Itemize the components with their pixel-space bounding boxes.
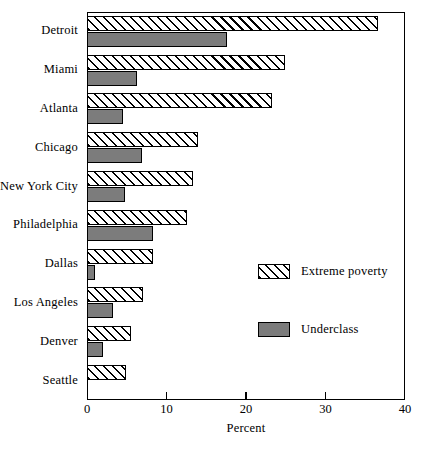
legend-label: Underclass: [301, 322, 359, 337]
y-axis-label: Denver: [40, 335, 78, 348]
bar-extreme-poverty: [87, 16, 378, 31]
y-axis-label: Chicago: [35, 141, 78, 154]
legend-swatch-hatch: [258, 264, 290, 279]
bar-group: [87, 284, 405, 323]
legend-label: Extreme poverty: [301, 264, 388, 279]
bar-group: [87, 128, 405, 167]
bar-underclass: [87, 32, 227, 47]
bar-group: [87, 51, 405, 90]
bar-underclass: [87, 148, 142, 163]
x-axis-title: Percent: [87, 421, 405, 436]
bar-extreme-poverty: [87, 249, 153, 264]
bar-underclass: [87, 226, 153, 241]
bar-extreme-poverty: [87, 287, 143, 302]
y-axis-label: Miami: [44, 63, 78, 76]
bar-extreme-poverty: [87, 132, 198, 147]
x-tick-mark: [166, 392, 168, 400]
x-tick-label: 10: [160, 402, 173, 416]
bars-layer: [87, 12, 405, 400]
bar-underclass: [87, 303, 113, 318]
x-tick-label: 20: [240, 402, 253, 416]
x-tick-mark: [325, 392, 327, 400]
bar-extreme-poverty: [87, 210, 187, 225]
legend-swatch-solid: [258, 322, 290, 337]
x-tick-label: 30: [319, 402, 332, 416]
bar-group: [87, 90, 405, 129]
bar-chart: DetroitMiamiAtlantaChicagoNew York CityP…: [0, 0, 427, 475]
x-tick-label: 0: [84, 402, 90, 416]
bar-extreme-poverty: [87, 171, 193, 186]
y-axis-label: Detroit: [41, 24, 78, 37]
bar-underclass: [87, 71, 137, 86]
bar-extreme-poverty: [87, 326, 131, 341]
x-tick-label: 40: [399, 402, 412, 416]
legend-item: Extreme poverty: [258, 264, 388, 279]
bar-extreme-poverty: [87, 55, 285, 70]
bar-underclass: [87, 342, 103, 357]
y-axis-category-labels: DetroitMiamiAtlantaChicagoNew York CityP…: [0, 12, 83, 400]
y-axis-label: Atlanta: [40, 102, 78, 115]
y-axis-label: Dallas: [45, 257, 78, 270]
bar-group: [87, 206, 405, 245]
bar-group: [87, 12, 405, 51]
y-axis-label: Los Angeles: [14, 296, 78, 309]
bar-underclass: [87, 265, 95, 280]
bar-extreme-poverty: [87, 93, 272, 108]
y-axis-label: New York City: [0, 180, 78, 193]
y-axis-label: Seattle: [43, 374, 78, 387]
bar-group: [87, 167, 405, 206]
bar-underclass: [87, 109, 123, 124]
legend-item: Underclass: [258, 322, 359, 337]
x-tick-mark: [245, 392, 247, 400]
y-axis-label: Philadelphia: [13, 218, 78, 231]
bar-extreme-poverty: [87, 365, 126, 380]
bar-underclass: [87, 187, 125, 202]
